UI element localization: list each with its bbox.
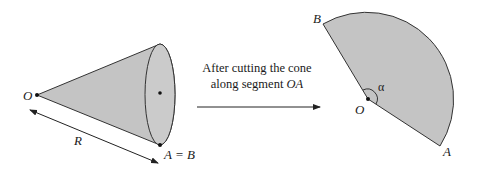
sector [323, 12, 454, 146]
sector-center-label: O [355, 102, 365, 117]
base-center-point [158, 91, 162, 95]
rim-point-label: A = B [163, 147, 195, 162]
transition: After cutting the cone along segment OA [197, 61, 320, 107]
sector-center-point [366, 97, 370, 101]
caption-line-2: along segment OA [211, 77, 304, 91]
sector-edge-end-label: B [313, 11, 321, 26]
figure-canvas: O R A = B After cutting the cone along s… [0, 0, 478, 171]
caption-segment-name: OA [287, 77, 304, 91]
rim-point [158, 143, 162, 147]
apex-point [35, 93, 39, 97]
cone-apex-label: O [23, 88, 33, 103]
sector-edge-start-label: A [442, 144, 451, 159]
slant-length-label: R [73, 133, 82, 148]
angle-alpha-label: α [378, 80, 385, 94]
caption-line-1: After cutting the cone [202, 61, 312, 75]
caption-line-2-prefix: along segment [211, 77, 287, 91]
sector-shape [323, 12, 454, 146]
cone [30, 44, 175, 163]
